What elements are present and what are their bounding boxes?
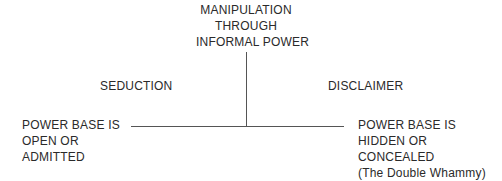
left-desc-line-3: ADMITTED (22, 149, 120, 165)
top-node-line-3: INFORMAL POWER (196, 34, 296, 50)
left-desc-line-1: POWER BASE IS (22, 117, 120, 133)
right-branch-description: POWER BASE IS HIDDEN OR CONCEALED (The D… (358, 117, 486, 181)
right-desc-line-1: POWER BASE IS (358, 117, 486, 133)
vertical-connector (246, 52, 247, 127)
right-desc-line-4: (The Double Whammy) (358, 165, 486, 181)
left-branch-description: POWER BASE IS OPEN OR ADMITTED (22, 117, 120, 165)
left-desc-line-2: OPEN OR (22, 133, 120, 149)
top-node-line-2: THROUGH (196, 18, 296, 34)
top-node: MANIPULATION THROUGH INFORMAL POWER (196, 2, 296, 50)
horizontal-axis (131, 126, 344, 127)
top-node-line-1: MANIPULATION (196, 2, 296, 18)
right-desc-line-2: HIDDEN OR (358, 133, 486, 149)
left-branch-title: SEDUCTION (100, 78, 172, 94)
right-desc-line-3: CONCEALED (358, 149, 486, 165)
right-branch-title: DISCLAIMER (328, 78, 403, 94)
